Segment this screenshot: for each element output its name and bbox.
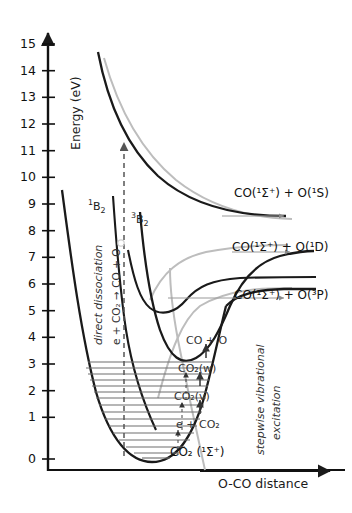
step-label-co2-v: CO₂(v) — [174, 390, 210, 403]
direct-dissociation-title: direct dissociation — [92, 245, 105, 345]
y-tick-2: 2 — [14, 383, 36, 398]
y-tick-14: 14 — [14, 63, 36, 78]
y-tick-3: 3 — [14, 356, 36, 371]
y-tick-15: 15 — [14, 36, 36, 51]
ground-state-label: CO₂ (¹Σ⁺) — [170, 445, 225, 459]
potential-energy-diagram: 15 14 13 12 11 10 9 8 7 6 5 4 3 2 1 0 En… — [0, 0, 352, 513]
y-tick-0: 0 — [14, 451, 36, 466]
x-axis-title: O-CO distance — [218, 476, 308, 491]
asymptote-guides — [168, 216, 290, 298]
y-tick-10: 10 — [14, 169, 36, 184]
vibrational-levels — [86, 362, 212, 458]
y-tick-12: 12 — [14, 116, 36, 131]
label-3b2: 3B2 — [131, 211, 149, 228]
curve-to-3p — [128, 250, 316, 313]
curves-layer — [0, 0, 352, 513]
y-tick-7: 7 — [14, 249, 36, 264]
label-3b2-letter: B — [136, 213, 144, 226]
label-1b2: 1B2 — [88, 198, 106, 215]
label-1b2-letter: B — [93, 200, 101, 213]
stepwise-title-line2: excitation — [270, 385, 283, 440]
asymptote-label-1s: CO(¹Σ⁺) + O(¹S) — [234, 186, 329, 200]
stepwise-title-line1: stepwise vibrational — [254, 344, 267, 455]
step-label-e-co2: e + CO₂ — [176, 418, 220, 431]
asymptote-label-3p: CO(¹Σ⁺) + O(³P) — [234, 288, 328, 302]
direct-dissociation-reaction: e + CO₂ → CO + O — [110, 248, 122, 345]
label-3b2-sub: 2 — [144, 219, 149, 228]
y-tick-9: 9 — [14, 196, 36, 211]
step-label-co-o: CO + O — [186, 334, 227, 347]
y-tick-1: 1 — [14, 409, 36, 424]
asymptote-label-1d: CO(¹Σ⁺) + O(¹D) — [232, 240, 328, 254]
y-tick-5: 5 — [14, 303, 36, 318]
y-axis-title: Energy (eV) — [68, 76, 83, 150]
label-1b2-sub: 2 — [101, 206, 106, 215]
y-tick-6: 6 — [14, 276, 36, 291]
y-tick-8: 8 — [14, 223, 36, 238]
step-label-co2-w: CO₂(w) — [178, 362, 216, 375]
y-tick-11: 11 — [14, 143, 36, 158]
decorative-circle — [118, 240, 124, 246]
y-tick-13: 13 — [14, 89, 36, 104]
y-tick-4: 4 — [14, 329, 36, 344]
